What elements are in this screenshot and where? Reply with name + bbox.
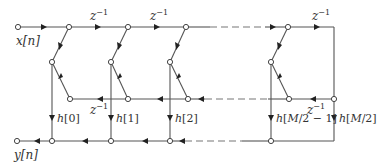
arrow-icon [179, 138, 185, 144]
input-node [15, 24, 20, 29]
arrow-icon [108, 115, 114, 121]
node [167, 138, 172, 143]
arrow-icon [82, 138, 88, 144]
arrow-icon [41, 24, 47, 30]
coef-h2: h[2] [175, 112, 198, 125]
bottom-delay-line [70, 96, 334, 102]
node [185, 96, 190, 101]
svg-text:z−1: z−1 [311, 8, 330, 23]
node [49, 138, 54, 143]
arrow-icon [49, 115, 55, 121]
coefficient-labels: hh[0][0] h[1] h[2] h[M/2 − 1] h[M/2] [57, 112, 377, 125]
svg-text:z−1: z−1 [89, 8, 108, 23]
arrow-icon [142, 138, 148, 144]
node [108, 138, 113, 143]
arrow-icon [157, 96, 163, 102]
arrow-icon [167, 115, 173, 121]
node [286, 96, 291, 101]
node [66, 24, 71, 29]
arrow-icon [154, 24, 160, 30]
coef-h1: h[1] [116, 112, 139, 125]
arrow-icon [95, 24, 101, 30]
sum-node [108, 59, 113, 64]
output-line [17, 138, 334, 144]
signal-flow-diagram: z−1 z−1 z−1 z−1 z−1 [0, 0, 386, 165]
output-node [14, 138, 19, 143]
coef-hM2: h[M/2] [339, 112, 377, 125]
output-label: y[n] [13, 148, 38, 162]
arrow-icon [314, 24, 320, 30]
arrow-icon [198, 96, 204, 102]
top-delay-labels: z−1 z−1 z−1 [89, 8, 330, 23]
sum-node [49, 59, 54, 64]
node [331, 96, 336, 101]
arrow-icon [270, 24, 276, 30]
svg-text:z−1: z−1 [89, 102, 108, 117]
svg-text:z−1: z−1 [149, 8, 168, 23]
node [67, 96, 72, 101]
node [125, 24, 130, 29]
node [183, 24, 188, 29]
coefficient-branches [49, 62, 337, 141]
node [285, 24, 290, 29]
node [125, 96, 130, 101]
sum-node [167, 59, 172, 64]
input-label: x[n] [16, 34, 40, 48]
arrow-icon [268, 115, 274, 121]
node [268, 138, 273, 143]
coef-hM2m1: h[M/2 − 1] [276, 112, 337, 125]
arrow-icon [34, 138, 40, 144]
coef-h0: hh[0][0] [57, 112, 80, 125]
sum-node [268, 59, 273, 64]
